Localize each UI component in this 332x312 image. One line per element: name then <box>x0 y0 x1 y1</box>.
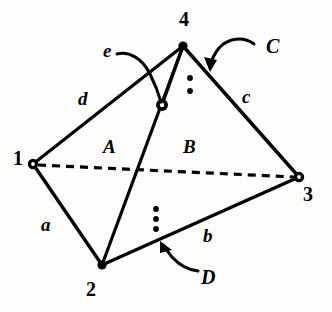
callout-label-D: D <box>201 267 215 287</box>
vertex-label-2: 2 <box>86 279 96 299</box>
edge-label-a: a <box>41 215 51 234</box>
vertex-marker-3-hole <box>297 175 301 179</box>
ellipsis-lower <box>153 206 159 232</box>
edge-label-c: c <box>242 87 250 106</box>
callout-label-C: C <box>266 36 279 56</box>
edge-b <box>102 177 299 265</box>
edge-label-d: d <box>78 89 88 108</box>
vertex-marker-4 <box>178 41 187 50</box>
edge-c <box>183 46 299 177</box>
diagram-canvas <box>0 0 332 312</box>
node-marker-e-hole <box>160 103 164 107</box>
ellipsis-dot <box>153 206 159 212</box>
vertex-label-1: 1 <box>13 148 23 168</box>
vertex-marker-2 <box>97 260 106 269</box>
face-label-A: A <box>103 137 116 156</box>
edge-label-b: b <box>203 226 213 245</box>
callout-arrowhead-D <box>160 241 172 253</box>
face-label-B: B <box>183 137 196 156</box>
callout-arrow-C <box>210 39 254 68</box>
edge-diagonal-dashed <box>38 165 295 177</box>
ellipsis-dot <box>153 216 159 222</box>
ellipsis-dot <box>187 75 193 81</box>
edge-label-e: e <box>103 41 111 60</box>
ellipsis-upper <box>187 75 193 94</box>
vertex-marker-1-hole <box>31 162 35 166</box>
ellipsis-dot <box>187 88 193 94</box>
vertex-label-3: 3 <box>303 184 313 204</box>
vertex-label-4: 4 <box>179 9 189 29</box>
edge-group <box>33 46 299 265</box>
ellipsis-dot <box>153 226 159 232</box>
geometric-diagram-figure: 1 2 3 4 a b c d e A B C D <box>0 0 332 312</box>
